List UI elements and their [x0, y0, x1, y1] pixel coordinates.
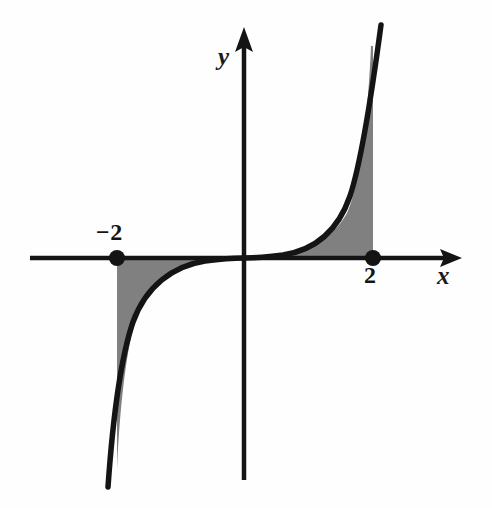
x-axis-label: x: [437, 263, 450, 288]
right-shaded-region: [244, 46, 373, 258]
y-axis-label: y: [218, 44, 229, 69]
graph-figure: y x −2 2: [0, 0, 492, 508]
tick-label-neg-2: −2: [96, 220, 123, 244]
point-neg-2: [109, 250, 125, 266]
plot-canvas: [0, 0, 492, 508]
tick-label-pos-2: 2: [364, 263, 376, 287]
left-shaded-region: [117, 258, 244, 470]
